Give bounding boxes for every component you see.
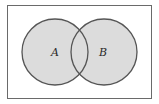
venn-diagram: A B — [0, 0, 159, 104]
set-b-label: B — [98, 46, 107, 59]
set-a-label: A — [50, 46, 59, 59]
